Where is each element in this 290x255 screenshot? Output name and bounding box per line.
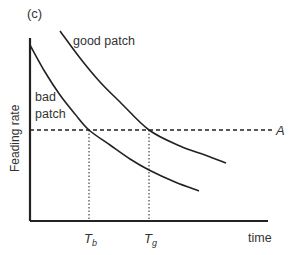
y-axis-label: Feading rate: [8, 104, 22, 172]
threshold-label-a: A: [275, 123, 285, 138]
tg-label: Tg: [144, 231, 157, 248]
bad-patch-label-line1: bad: [35, 90, 56, 104]
feeding-rate-chart: good patch bad patch A Feading rate time…: [0, 0, 290, 255]
good-patch-curve: [60, 31, 226, 163]
tb-label: Tb: [84, 231, 97, 248]
bad-patch-label-line2: patch: [35, 107, 66, 121]
x-axis-label: time: [248, 231, 272, 245]
good-patch-label: good patch: [73, 34, 135, 48]
